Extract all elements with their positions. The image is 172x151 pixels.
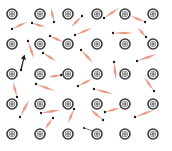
electron-dot — [52, 117, 54, 119]
electron-dot — [113, 61, 115, 63]
electron-dot — [81, 15, 83, 17]
electron-dot — [73, 108, 75, 110]
positive-ion-icon — [35, 99, 45, 109]
positive-ion-icon — [63, 99, 73, 109]
electron-dot — [42, 52, 44, 54]
positive-ion-icon — [120, 69, 130, 79]
positive-ion-icon — [35, 39, 45, 49]
positive-ion-icon — [35, 129, 45, 139]
positive-ion-icon — [120, 39, 130, 49]
positive-ion-icon — [35, 69, 45, 79]
electron-dot — [35, 83, 37, 85]
positive-ion-icon — [148, 129, 158, 139]
electron-dot — [31, 22, 33, 24]
positive-ion-icon — [7, 129, 17, 139]
electron-dot — [93, 88, 95, 90]
electron-dot — [11, 28, 13, 30]
positive-ion-icon — [148, 69, 158, 79]
electron-dot — [16, 96, 18, 98]
positive-ion-icon — [7, 39, 17, 49]
positive-ion-icon — [148, 9, 158, 19]
electron-dot — [53, 21, 55, 23]
positive-ion-icon — [7, 99, 17, 109]
positive-ion-icon — [92, 129, 102, 139]
electron-dot — [144, 21, 146, 23]
electron-dot — [77, 85, 79, 87]
electron-dot — [49, 35, 51, 37]
electron-dot — [20, 69, 22, 71]
positive-ion-icon — [120, 129, 130, 139]
positive-ion-icon — [7, 69, 17, 79]
electron-dot — [83, 127, 85, 129]
electron-dot — [112, 32, 114, 34]
electron-dot — [103, 17, 105, 19]
positive-ion-icon — [63, 69, 73, 79]
electron-dot — [145, 36, 147, 38]
electron-dot — [136, 60, 138, 62]
positive-ion-icon — [92, 9, 102, 19]
positive-ion-icon — [120, 99, 130, 109]
electron-dot — [60, 74, 62, 76]
electron-lattice-diagram — [0, 0, 172, 151]
electron-dot — [104, 111, 106, 113]
electron-dot — [153, 90, 155, 92]
electron-dot — [102, 119, 104, 121]
positive-ion-icon — [92, 39, 102, 49]
positive-ion-icon — [63, 39, 73, 49]
positive-ion-icon — [120, 9, 130, 19]
positive-ion-icon — [7, 9, 17, 19]
positive-ion-icon — [92, 69, 102, 79]
electron-dot — [134, 116, 136, 118]
electron-dot — [74, 34, 76, 36]
electron-dot — [40, 112, 42, 114]
positive-ion-icon — [63, 129, 73, 139]
electron-dot — [27, 40, 29, 42]
electron-dot — [80, 49, 82, 51]
positive-ion-icon — [148, 39, 158, 49]
positive-ion-icon — [92, 99, 102, 109]
positive-ion-icon — [148, 99, 158, 109]
electron-dot — [19, 116, 21, 118]
positive-ion-icon — [63, 9, 73, 19]
positive-ion-icon — [35, 9, 45, 19]
